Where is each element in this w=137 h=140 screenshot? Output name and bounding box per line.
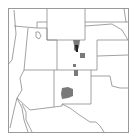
map-container: Southwestern United States region map (0, 0, 137, 140)
east-central-colorado-region (80, 53, 85, 58)
north-new-mexico-region (74, 70, 78, 76)
map-svg (0, 0, 137, 140)
south-colorado-small-region (73, 64, 76, 67)
